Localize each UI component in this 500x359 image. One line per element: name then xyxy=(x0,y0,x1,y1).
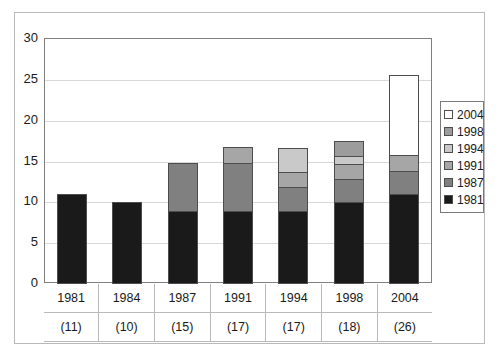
bar-segment-1991 xyxy=(389,155,419,171)
bar-segment-1981 xyxy=(389,194,419,284)
bar-segment-1987 xyxy=(168,163,198,212)
legend-label: 2004 xyxy=(457,109,484,121)
bar-segment-1987 xyxy=(334,179,364,204)
legend-swatch-icon xyxy=(444,144,453,153)
bar-slot xyxy=(99,38,154,283)
legend: 200419981994199119871981 xyxy=(440,101,484,213)
legend-swatch-icon xyxy=(444,178,453,187)
legend-label: 1991 xyxy=(457,160,484,172)
x-axis-count-label: (15) xyxy=(154,313,210,342)
bar-stack[interactable] xyxy=(57,194,87,283)
legend-item-1987[interactable]: 1987 xyxy=(444,174,480,191)
bar-stack[interactable] xyxy=(278,148,308,283)
bar-segment-2004 xyxy=(389,75,419,157)
x-axis-count-label: (17) xyxy=(210,313,266,342)
bar-segment-1987 xyxy=(223,163,253,212)
bar-segment-1981 xyxy=(223,211,253,285)
legend-item-1981[interactable]: 1981 xyxy=(444,191,480,208)
bar-stack[interactable] xyxy=(112,202,142,283)
legend-item-1994[interactable]: 1994 xyxy=(444,140,480,157)
bar-stack[interactable] xyxy=(334,141,364,283)
x-axis-count-label: (10) xyxy=(99,313,155,342)
legend-swatch-icon xyxy=(444,110,453,119)
legend-label: 1998 xyxy=(457,126,484,138)
x-axis-year-label: 1998 xyxy=(322,284,378,313)
x-axis-count-label: (11) xyxy=(44,313,99,342)
x-axis-year-label: 1981 xyxy=(44,284,99,313)
bar-segment-1981 xyxy=(112,202,142,284)
bar-stack[interactable] xyxy=(389,75,419,283)
bar-segment-1991 xyxy=(334,164,364,180)
bar-segment-1981 xyxy=(278,211,308,285)
bar-stack[interactable] xyxy=(168,163,198,284)
bar-segment-1994 xyxy=(278,148,308,173)
x-axis-year-label: 1984 xyxy=(99,284,155,313)
x-axis-label-table: 1981198419871991199419982004 (11)(10)(15… xyxy=(44,284,432,342)
bar-segment-1987 xyxy=(389,171,419,196)
legend-item-1998[interactable]: 1998 xyxy=(444,123,480,140)
x-axis-year-label: 2004 xyxy=(377,284,432,313)
chart-figure: 051015202530 198119841987199119941998200… xyxy=(0,0,500,359)
bar-segment-1991 xyxy=(223,147,253,163)
x-axis-year-label: 1991 xyxy=(210,284,266,313)
bar-segment-1981 xyxy=(168,211,198,285)
bar-segment-1981 xyxy=(334,202,364,284)
legend-item-1991[interactable]: 1991 xyxy=(444,157,480,174)
bar-segment-1991 xyxy=(278,172,308,188)
legend-swatch-icon xyxy=(444,195,453,204)
bar-slot xyxy=(155,38,210,283)
legend-swatch-icon xyxy=(444,161,453,170)
bar-segment-1987 xyxy=(278,187,308,212)
legend-label: 1987 xyxy=(457,177,484,189)
bars-layer xyxy=(44,38,432,283)
legend-label: 1994 xyxy=(457,143,484,155)
bar-segment-1998 xyxy=(334,141,364,157)
bar-slot xyxy=(44,38,99,283)
bar-slot xyxy=(266,38,321,283)
legend-item-2004[interactable]: 2004 xyxy=(444,106,480,123)
x-axis-year-label: 1994 xyxy=(266,284,322,313)
bar-stack[interactable] xyxy=(223,147,253,283)
legend-label: 1981 xyxy=(457,194,484,206)
x-axis-year-row: 1981198419871991199419982004 xyxy=(44,284,432,313)
x-axis-count-label: (18) xyxy=(322,313,378,342)
legend-swatch-icon xyxy=(444,127,453,136)
bar-slot xyxy=(377,38,432,283)
x-axis-count-row: (11)(10)(15)(17)(17)(18)(26) xyxy=(44,313,432,342)
x-axis-year-label: 1987 xyxy=(154,284,210,313)
bar-slot xyxy=(210,38,265,283)
x-axis-count-label: (26) xyxy=(377,313,432,342)
bar-segment-1981 xyxy=(57,194,87,284)
x-axis-count-label: (17) xyxy=(266,313,322,342)
bar-slot xyxy=(321,38,376,283)
